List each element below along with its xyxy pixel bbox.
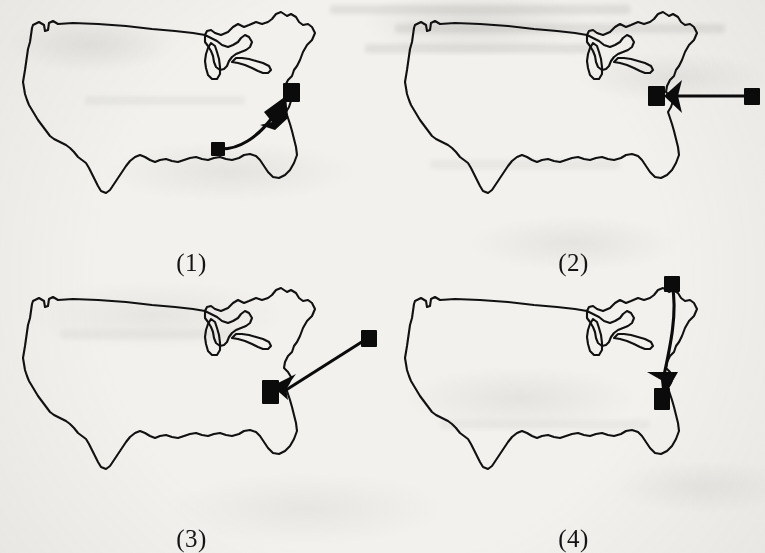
vector-shaft [663, 284, 674, 380]
vector-tail-square [361, 330, 377, 347]
lake-michigan-path [205, 319, 220, 355]
us-map-outline-4 [382, 276, 765, 516]
vector-target-square [654, 388, 670, 410]
us-coastline-path [23, 288, 315, 469]
lake-erie-ontario-path [232, 58, 271, 73]
map-panel-4[interactable]: (4) [382, 276, 765, 553]
annotation-vector-2 [648, 80, 760, 113]
us-map-outline-2 [382, 0, 765, 240]
us-map-outline-3 [0, 276, 383, 516]
vector-tail-square [664, 276, 680, 292]
lake-erie-ontario-path [614, 334, 653, 349]
us-coastline-path [405, 288, 697, 469]
vector-tail-square [744, 88, 760, 105]
map-panel-3[interactable]: (3) [0, 276, 383, 553]
panel-label-3: (3) [0, 526, 383, 551]
panel-label-2: (2) [382, 250, 765, 275]
vector-tail-square [211, 142, 225, 156]
map-panel-2[interactable]: (2) [382, 0, 765, 277]
lake-erie-ontario-path [614, 58, 653, 73]
us-coastline-path [23, 12, 315, 193]
annotation-vector-1 [211, 83, 300, 156]
panel-label-4: (4) [382, 526, 765, 551]
vector-target-square [648, 86, 665, 106]
us-map-outline-1 [0, 0, 383, 240]
vector-target-square [262, 380, 279, 404]
lake-michigan-path [205, 43, 220, 79]
lake-erie-ontario-path [232, 334, 271, 349]
figure-root: (1) (2) [0, 0, 765, 553]
annotation-vector-3 [262, 330, 377, 404]
lake-michigan-path [587, 319, 602, 355]
vector-shaft [219, 115, 274, 149]
lake-michigan-path [587, 43, 602, 79]
panel-label-1: (1) [0, 250, 383, 275]
map-panel-1[interactable]: (1) [0, 0, 383, 277]
vector-shaft [286, 338, 368, 390]
vector-target-square [283, 83, 300, 102]
